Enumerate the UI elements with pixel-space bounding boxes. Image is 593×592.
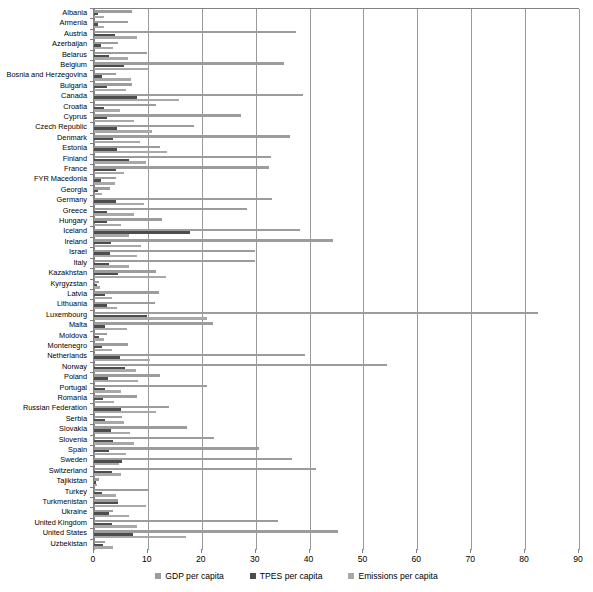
bar-group: [94, 19, 579, 29]
bar-emis: [94, 317, 207, 319]
category-label: Azerbaijan: [52, 40, 87, 48]
bar-emis: [94, 494, 116, 496]
bar-group: [94, 217, 579, 227]
bar-group: [94, 259, 579, 269]
bar-gdp: [94, 468, 316, 470]
x-tick-label: 10: [142, 554, 152, 564]
bar-group: [94, 269, 579, 279]
bar-emis: [94, 328, 127, 330]
bar-group: [94, 186, 579, 196]
bar-emis: [94, 193, 102, 195]
category-label: Cyprus: [64, 113, 87, 121]
x-tick: [470, 549, 471, 553]
category-label: Serbia: [66, 415, 87, 423]
bar-group: [94, 123, 579, 133]
x-tick-label: 0: [91, 554, 96, 564]
legend-label-gdp: GDP per capita: [165, 571, 224, 581]
category-label: Hungary: [59, 217, 87, 225]
bar-emis: [94, 380, 138, 382]
bar-emis: [94, 453, 126, 455]
x-tick-label: 40: [304, 554, 314, 564]
category-label: Denmark: [57, 134, 87, 142]
category-label: Spain: [68, 446, 87, 454]
bar-emis: [94, 359, 150, 361]
bar-group: [94, 103, 579, 113]
category-label: Austria: [64, 30, 87, 38]
category-label: United Kingdom: [34, 519, 87, 527]
grouped-bar-chart: AlbaniaArmeniaAustriaAzerbaijanBelarusBe…: [0, 0, 593, 592]
category-label: Israel: [69, 248, 87, 256]
x-tick: [309, 549, 310, 553]
bar-emis: [94, 26, 104, 28]
category-label: Greece: [63, 207, 87, 215]
category-label: Russian Federation: [23, 404, 87, 412]
bar-emis: [94, 297, 112, 299]
bar-emis: [94, 265, 129, 267]
category-label: Canada: [61, 92, 87, 100]
bar-emis: [94, 255, 137, 257]
category-label: FYR Macedonia: [34, 175, 87, 183]
x-axis: 0102030405060708090: [93, 549, 579, 565]
legend-label-emissions: Emissions per capita: [358, 571, 437, 581]
category-label: Finland: [63, 155, 87, 163]
bar-gdp: [94, 458, 292, 460]
bar-emis: [94, 515, 129, 517]
bar-emis: [94, 349, 112, 351]
x-tick-label: 90: [573, 554, 583, 564]
legend-swatch-tpes-icon: [250, 573, 256, 579]
category-label: Estonia: [62, 144, 87, 152]
bar-group: [94, 404, 579, 414]
x-tick: [524, 549, 525, 553]
category-label: Bosnia and Herzegovina: [6, 71, 87, 79]
bar-group: [94, 290, 579, 300]
bar-emis: [94, 130, 152, 132]
bar-gdp: [94, 312, 538, 314]
category-label: United States: [43, 529, 87, 537]
category-label: Turkey: [65, 488, 87, 496]
bar-group: [94, 436, 579, 446]
bar-gdp: [94, 489, 148, 491]
bar-emis: [94, 525, 137, 527]
category-label: Germany: [57, 196, 87, 204]
bar-emis: [94, 99, 179, 101]
bar-emis: [94, 390, 121, 392]
bar-emis: [94, 505, 146, 507]
category-label: Iceland: [63, 227, 87, 235]
bar-emis: [94, 89, 126, 91]
category-label: Moldova: [59, 332, 87, 340]
category-label: Belarus: [62, 51, 87, 59]
bar-group: [94, 519, 579, 529]
category-label: Ireland: [64, 238, 87, 246]
bar-group: [94, 196, 579, 206]
bar-group: [94, 144, 579, 154]
bar-group: [94, 40, 579, 50]
bar-group: [94, 394, 579, 404]
gridline-90: [579, 9, 580, 550]
bar-emis: [94, 307, 117, 309]
bar-rows: [94, 9, 579, 550]
category-label: Slovenia: [59, 436, 87, 444]
bar-group: [94, 415, 579, 425]
bar-gdp: [94, 31, 296, 33]
x-tick-label: 20: [196, 554, 206, 564]
category-label: Romania: [57, 394, 87, 402]
category-label: Lithuania: [57, 300, 87, 308]
x-tick: [147, 549, 148, 553]
bar-group: [94, 227, 579, 237]
category-label: Ukraine: [62, 508, 87, 516]
bar-group: [94, 498, 579, 508]
category-label: Switzerland: [49, 467, 87, 475]
category-label: Belgium: [60, 61, 87, 69]
bar-group: [94, 425, 579, 435]
bar-group: [94, 363, 579, 373]
category-label: Turkmenistan: [43, 498, 88, 506]
bar-emis: [94, 161, 146, 163]
bar-emis: [94, 141, 140, 143]
x-tick: [93, 549, 94, 553]
category-label: Portugal: [59, 384, 87, 392]
bar-emis: [94, 442, 134, 444]
bar-group: [94, 456, 579, 466]
x-tick-label: 60: [412, 554, 422, 564]
x-tick: [578, 549, 579, 553]
bar-group: [94, 384, 579, 394]
